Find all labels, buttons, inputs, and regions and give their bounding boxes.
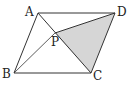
label-p: P [51, 36, 59, 48]
label-a: A [25, 6, 34, 18]
label-c: C [93, 70, 102, 82]
segment-bp [14, 33, 55, 73]
diagram-figure [0, 0, 131, 87]
label-d: D [117, 6, 127, 18]
label-b: B [2, 68, 11, 80]
parallelogram-diagram: A D B C P [0, 0, 131, 87]
